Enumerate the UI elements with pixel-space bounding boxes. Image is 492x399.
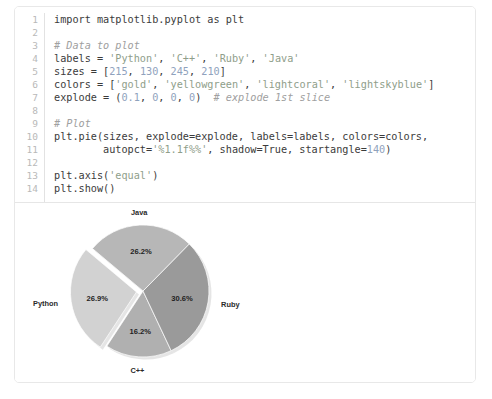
- code-token-plain: explode = (: [54, 92, 121, 103]
- code-token-str: 'Python': [109, 53, 158, 64]
- code-token-plain: ,: [244, 79, 256, 90]
- code-line[interactable]: # Plot: [54, 117, 475, 130]
- code-line[interactable]: explode = (0.1, 0, 0, 0) # explode 1st s…: [54, 91, 475, 104]
- code-line[interactable]: plt.pie(sizes, explode=explode, labels=l…: [54, 130, 475, 143]
- pie-category-label: Java: [131, 208, 148, 217]
- line-number: 14: [15, 182, 38, 195]
- code-lines[interactable]: import matplotlib.pyplot as plt # Data t…: [45, 13, 475, 202]
- pie-category-label: Python: [33, 299, 59, 308]
- line-number: 13: [15, 169, 38, 182]
- code-token-str: 'lightskyblue': [342, 79, 428, 90]
- code-token-plain: autopct=: [54, 144, 152, 155]
- code-token-plain: ,: [177, 92, 189, 103]
- code-token-str: 'Ruby': [214, 53, 251, 64]
- code-token-plain: ,: [201, 53, 213, 64]
- screenshot-root: 1234567891011121314 import matplotlib.py…: [0, 0, 492, 399]
- pie-pct-label: 16.2%: [129, 327, 151, 336]
- code-token-plain: ]: [220, 66, 226, 77]
- code-token-num: 140: [367, 144, 385, 155]
- code-line[interactable]: plt.axis('equal'): [54, 169, 475, 182]
- code-line[interactable]: colors = ['gold', 'yellowgreen', 'lightc…: [54, 78, 475, 91]
- code-token-com: # Plot: [54, 118, 91, 129]
- code-token-str: 'lightcoral': [256, 79, 330, 90]
- code-token-plain: ,: [158, 66, 170, 77]
- code-token-plain: ): [152, 170, 158, 181]
- code-token-num: 215: [109, 66, 127, 77]
- code-token-str: 'gold': [115, 79, 152, 90]
- code-and-output-card: 1234567891011121314 import matplotlib.py…: [14, 6, 476, 383]
- code-token-plain: , shadow=True, startangle=: [207, 144, 366, 155]
- code-token-str: '%1.1f%%': [152, 144, 207, 155]
- code-line[interactable]: # Data to plot: [54, 39, 475, 52]
- pie-pct-label: 26.9%: [87, 294, 109, 303]
- code-token-plain: sizes = [: [54, 66, 109, 77]
- code-token-plain: plt.show(): [54, 183, 115, 194]
- code-token-plain: ): [195, 92, 213, 103]
- code-token-num: 210: [201, 66, 219, 77]
- code-token-plain: labels =: [54, 53, 109, 64]
- code-token-plain: import matplotlib.pyplot as plt: [54, 14, 244, 25]
- chart-output-area: 26.9%Python16.2%C++30.6%Ruby26.2%Java: [15, 203, 475, 383]
- code-block[interactable]: 1234567891011121314 import matplotlib.py…: [15, 7, 475, 203]
- code-token-num: 0.1: [121, 92, 139, 103]
- line-number: 7: [15, 91, 38, 104]
- line-number: 4: [15, 52, 38, 65]
- line-number: 9: [15, 117, 38, 130]
- code-token-plain: ,: [158, 53, 170, 64]
- code-token-plain: ,: [250, 53, 262, 64]
- pie-chart-figure: 26.9%Python16.2%C++30.6%Ruby26.2%Java: [15, 203, 476, 383]
- line-number: 12: [15, 156, 38, 169]
- code-line[interactable]: sizes = [215, 130, 245, 210]: [54, 65, 475, 78]
- code-token-plain: ,: [128, 66, 140, 77]
- code-token-str: 'yellowgreen': [164, 79, 244, 90]
- code-line[interactable]: autopct='%1.1f%%', shadow=True, startang…: [54, 143, 475, 156]
- line-number: 10: [15, 130, 38, 143]
- pie-category-label: Ruby: [221, 300, 240, 309]
- code-token-plain: ,: [158, 92, 170, 103]
- line-number: 11: [15, 143, 38, 156]
- code-token-com: # explode 1st slice: [214, 92, 331, 103]
- code-line[interactable]: labels = 'Python', 'C++', 'Ruby', 'Java': [54, 52, 475, 65]
- code-token-plain: colors = [: [54, 79, 115, 90]
- pie-pct-label: 26.2%: [130, 247, 152, 256]
- code-line[interactable]: [54, 26, 475, 39]
- code-token-plain: ,: [140, 92, 152, 103]
- code-line[interactable]: plt.show(): [54, 182, 475, 195]
- code-token-plain: ,: [330, 79, 342, 90]
- code-token-plain: ): [385, 144, 391, 155]
- pie-category-label: C++: [130, 366, 145, 375]
- pie-chart-svg: 26.9%Python16.2%C++30.6%Ruby26.2%Java: [21, 205, 321, 381]
- code-token-str: 'C++': [171, 53, 202, 64]
- line-number: 2: [15, 26, 38, 39]
- line-number: 1: [15, 13, 38, 26]
- pie-pct-label: 30.6%: [171, 294, 193, 303]
- code-line[interactable]: [54, 156, 475, 169]
- code-line[interactable]: import matplotlib.pyplot as plt: [54, 13, 475, 26]
- code-token-plain: ,: [189, 66, 201, 77]
- code-token-com: # Data to plot: [54, 40, 140, 51]
- code-token-str: 'equal': [109, 170, 152, 181]
- code-line[interactable]: [54, 104, 475, 117]
- line-number: 3: [15, 39, 38, 52]
- line-number-gutter: 1234567891011121314: [15, 13, 45, 202]
- code-token-num: 245: [171, 66, 189, 77]
- code-token-plain: plt.axis(: [54, 170, 109, 181]
- code-token-num: 130: [140, 66, 158, 77]
- code-token-str: 'Java': [263, 53, 300, 64]
- line-number: 6: [15, 78, 38, 91]
- line-number: 8: [15, 104, 38, 117]
- code-token-plain: ,: [152, 79, 164, 90]
- code-token-plain: ]: [428, 79, 434, 90]
- line-number: 5: [15, 65, 38, 78]
- code-token-plain: plt.pie(sizes, explode=explode, labels=l…: [54, 131, 428, 142]
